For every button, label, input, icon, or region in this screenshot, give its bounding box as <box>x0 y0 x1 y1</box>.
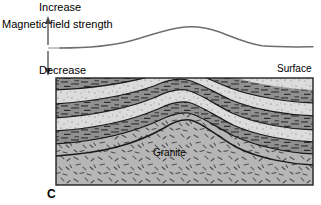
increase-label: Increase <box>39 2 81 14</box>
surface-label: Surface <box>277 64 311 75</box>
magnetic-anomaly-figure <box>0 0 321 205</box>
cross-section-block <box>56 58 313 185</box>
granite-label: Granite <box>153 148 186 159</box>
y-axis-label: Magnetic field strength <box>2 19 42 31</box>
decrease-label: Decrease <box>39 65 86 77</box>
panel-label: C <box>47 188 56 201</box>
